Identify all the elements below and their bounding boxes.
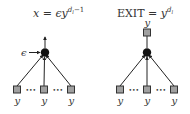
aggregator-node — [41, 48, 49, 56]
leaf-label-2: y — [41, 95, 48, 106]
leaf-square-1 — [117, 86, 124, 93]
leaf-label-1: y — [14, 95, 21, 106]
aggregator-node — [143, 48, 151, 56]
leaf-square-1 — [14, 86, 21, 93]
leaf-square-3 — [171, 86, 178, 93]
output-label: y — [144, 17, 151, 28]
epsilon-label: ϵ — [21, 47, 27, 58]
edge-leaf3 — [46, 55, 71, 86]
ellipsis-1: ••• — [129, 86, 140, 93]
leaf-square-2 — [144, 86, 151, 93]
leaf-square-3 — [68, 86, 75, 93]
left-title: x = ϵydl−1 — [33, 6, 84, 20]
leaf-label-1: y — [117, 95, 124, 106]
leaf-square-2 — [41, 86, 48, 93]
edge-leaf1 — [17, 55, 43, 86]
output-square — [144, 29, 151, 36]
edge-leaf3 — [149, 55, 174, 86]
leaf-label-3: y — [171, 95, 178, 106]
ellipsis-2: ••• — [156, 86, 167, 93]
left-diagram: x = ϵydl−1 ϵ ••• ••• y y y — [14, 6, 85, 106]
ellipsis-2: ••• — [53, 86, 64, 93]
ellipsis-1: ••• — [26, 86, 37, 93]
edge-leaf1 — [120, 55, 145, 86]
diagram-canvas: x = ϵydl−1 ϵ ••• ••• y y y EXIT = ydl y — [0, 0, 190, 114]
right-diagram: EXIT = ydl y ••• ••• y y y — [117, 6, 178, 106]
edge-leaf2 — [44, 57, 45, 86]
leaf-label-3: y — [68, 95, 75, 106]
leaf-label-2: y — [144, 95, 151, 106]
